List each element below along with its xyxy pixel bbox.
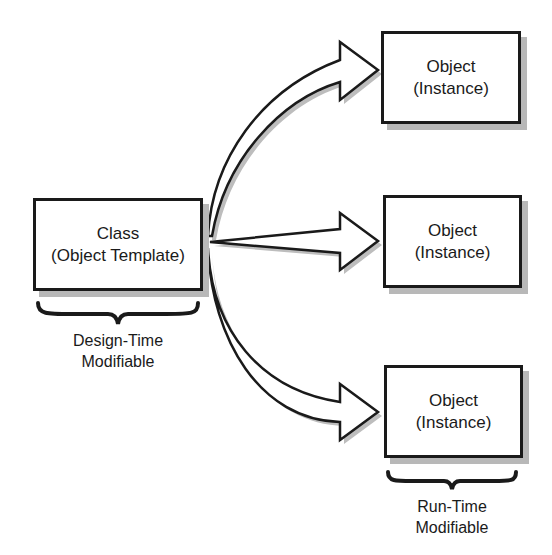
class-box-subtitle: (Object Template) — [51, 245, 185, 267]
design-time-caption-line2: Modifiable — [58, 351, 178, 372]
class-box-title: Class — [97, 223, 140, 245]
design-time-caption: Design-Time Modifiable — [58, 330, 178, 372]
class-box: Class (Object Template) — [33, 198, 203, 291]
object-box-title: Object — [429, 390, 478, 412]
design-time-brace — [38, 303, 198, 324]
arrow-to-object-1 — [208, 42, 378, 236]
object-box-title: Object — [428, 220, 477, 242]
object-box-subtitle: (Instance) — [415, 242, 491, 264]
run-time-brace — [388, 472, 516, 489]
object-box-1: Object (Instance) — [381, 31, 521, 124]
arrow-to-object-2 — [210, 213, 378, 270]
run-time-caption-line2: Modifiable — [397, 517, 507, 538]
object-box-2: Object (Instance) — [383, 195, 522, 288]
run-time-caption: Run-Time Modifiable — [397, 496, 507, 538]
object-box-subtitle: (Instance) — [416, 412, 492, 434]
design-time-caption-line1: Design-Time — [58, 330, 178, 351]
object-box-title: Object — [426, 56, 475, 78]
object-box-subtitle: (Instance) — [413, 78, 489, 100]
object-box-3: Object (Instance) — [384, 365, 523, 458]
arrow-to-object-3 — [208, 248, 378, 440]
run-time-caption-line1: Run-Time — [397, 496, 507, 517]
